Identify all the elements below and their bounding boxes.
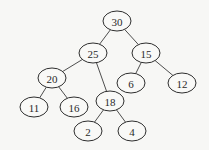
tree-edge bbox=[96, 63, 106, 92]
tree-node-25: 25 bbox=[79, 43, 107, 63]
node-label: 15 bbox=[141, 48, 153, 60]
node-label: 4 bbox=[129, 126, 135, 138]
tree-edge bbox=[136, 62, 142, 73]
node-label: 6 bbox=[128, 78, 134, 90]
tree-node-4: 4 bbox=[118, 121, 146, 141]
tree-node-15: 15 bbox=[132, 43, 160, 63]
tree-node-11: 11 bbox=[20, 97, 48, 117]
tree-node-16: 16 bbox=[60, 97, 88, 117]
tree-node-20: 20 bbox=[38, 68, 66, 88]
tree-edge bbox=[155, 61, 173, 76]
tree-edge bbox=[59, 87, 68, 98]
node-label: 12 bbox=[177, 78, 188, 90]
tree-edge bbox=[125, 29, 139, 44]
tree-nodes: 3025152061211161824 bbox=[20, 11, 196, 141]
tree-edge bbox=[100, 30, 111, 44]
tree-node-6: 6 bbox=[117, 73, 145, 93]
node-label: 2 bbox=[85, 126, 91, 138]
tree-node-18: 18 bbox=[96, 91, 124, 111]
node-label: 18 bbox=[105, 96, 117, 108]
node-label: 25 bbox=[88, 48, 100, 60]
node-label: 20 bbox=[47, 73, 59, 85]
tree-edge bbox=[63, 59, 83, 71]
tree-node-30: 30 bbox=[103, 11, 131, 31]
tree-node-12: 12 bbox=[168, 73, 196, 93]
tree-diagram: 3025152061211161824 bbox=[0, 0, 209, 150]
node-label: 11 bbox=[29, 102, 40, 114]
node-label: 30 bbox=[112, 16, 124, 28]
tree-node-2: 2 bbox=[74, 121, 102, 141]
tree-edge bbox=[116, 110, 125, 122]
node-label: 16 bbox=[69, 102, 81, 114]
tree-edge bbox=[94, 110, 103, 122]
tree-edge bbox=[40, 87, 47, 98]
